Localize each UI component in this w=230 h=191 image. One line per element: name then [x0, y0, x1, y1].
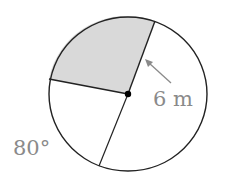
center-point	[125, 91, 131, 97]
angle-label: 80°	[13, 136, 50, 160]
arrow-shaft	[149, 63, 171, 83]
radius-label: 6 m	[153, 87, 193, 111]
circle-diagram: 6 m 80°	[0, 0, 230, 191]
radius-line-bottom	[99, 94, 128, 166]
